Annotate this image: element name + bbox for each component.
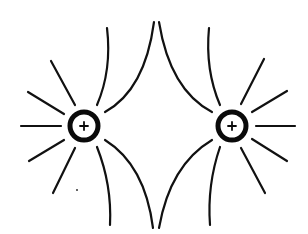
field-line <box>97 147 110 225</box>
right-charge-curved-lines <box>159 22 220 228</box>
field-line <box>105 22 154 112</box>
field-line <box>252 139 287 161</box>
field-line <box>159 22 212 112</box>
left-positive-charge <box>70 112 98 140</box>
field-line <box>241 59 264 104</box>
left-charge-curved-lines <box>97 22 154 228</box>
right-positive-charge <box>218 112 246 140</box>
field-line <box>51 61 75 105</box>
field-line <box>209 147 220 225</box>
left-charge-radial-lines <box>21 61 75 193</box>
field-line <box>28 92 64 114</box>
field-line <box>29 140 64 161</box>
field-line <box>97 28 108 105</box>
field-line <box>241 148 265 193</box>
right-charge-radial-lines <box>241 59 295 193</box>
print-speck <box>76 189 78 191</box>
field-line <box>159 140 212 228</box>
field-lines-diagram <box>0 0 308 234</box>
field-line <box>53 148 75 193</box>
field-line <box>208 28 220 105</box>
field-line <box>105 140 153 228</box>
field-line <box>252 91 287 112</box>
